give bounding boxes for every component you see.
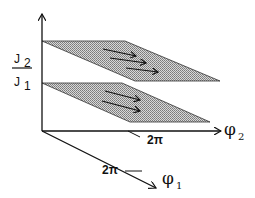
phi1-axis (42, 131, 156, 188)
j2-label: J2 (14, 50, 31, 66)
phi1-label: φ1 (162, 170, 182, 187)
upper-plane (42, 41, 220, 81)
lower-plane (42, 83, 210, 122)
phi2-label: φ2 (224, 121, 244, 138)
phi2-tick-label: 2π (147, 134, 163, 146)
phi2-tick (128, 131, 140, 137)
phi1-tick-label: 2π (102, 164, 118, 176)
j1-label: J1 (14, 73, 31, 89)
diagram-canvas (0, 0, 255, 198)
